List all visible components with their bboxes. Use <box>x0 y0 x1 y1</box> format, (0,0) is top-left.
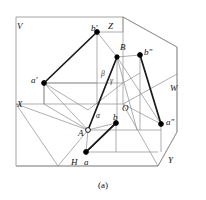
thin-construction-lines <box>16 17 177 166</box>
point-label-b-double-prime: b" <box>144 48 152 57</box>
vertex-A <box>86 128 91 133</box>
point-label-b-lower: b <box>113 113 118 122</box>
angle-label-gamma: γ <box>110 77 113 85</box>
angle-label-beta: β <box>101 70 105 78</box>
vertex-a-dprime <box>159 122 164 127</box>
proj-A-to-a-prime <box>44 83 88 130</box>
w-plane-upper <box>123 17 177 47</box>
figure-caption: (a) <box>0 180 206 190</box>
vertex-a-lower <box>84 150 89 155</box>
axis-label-origin-o: O <box>122 104 129 113</box>
seg-b-dprime-a-dprime <box>140 55 161 124</box>
point-label-a-prime: a' <box>31 76 37 85</box>
proj-B-to-a-dprime <box>117 57 161 124</box>
projection-diagram <box>0 0 206 200</box>
plane-label-w: W <box>170 84 178 93</box>
proj-B-to-b-dprime <box>117 55 140 57</box>
aux-o-box-top <box>123 73 140 83</box>
aux-a-prime-to-A <box>44 104 88 130</box>
proj-A-to-a-lower <box>86 130 88 152</box>
figure-container: V W H Z X Y O b' B b" a' a" b A a β γ α … <box>0 0 206 200</box>
h-plane-left-diag <box>16 104 58 166</box>
aux-inner-quad <box>44 83 88 110</box>
vertex-B <box>115 55 119 59</box>
point-label-a-double-prime: a" <box>166 118 174 127</box>
point-label-a-lower: a <box>84 158 89 167</box>
vertex-a-prime <box>42 81 47 86</box>
angle-label-alpha: α <box>96 112 100 120</box>
point-label-B: B <box>120 43 126 52</box>
axis-label-z: Z <box>108 22 113 31</box>
vertex-b-dprime <box>138 53 143 58</box>
seg-a-lower-to-a-dprime <box>86 123 116 152</box>
axis-label-y: Y <box>168 156 173 165</box>
plane-label-v: V <box>17 22 23 31</box>
point-label-b-prime: b' <box>91 24 97 33</box>
seg-a-prime-b-prime <box>44 32 97 83</box>
aux-h-left <box>16 104 88 130</box>
proj-B-to-b-prime <box>97 32 117 57</box>
proj-B-to-b-lower-diag <box>117 57 137 130</box>
outer-frame <box>16 17 177 166</box>
point-label-A: A <box>78 129 84 138</box>
plane-label-h: H <box>71 158 78 167</box>
axis-label-x: X <box>17 100 23 109</box>
